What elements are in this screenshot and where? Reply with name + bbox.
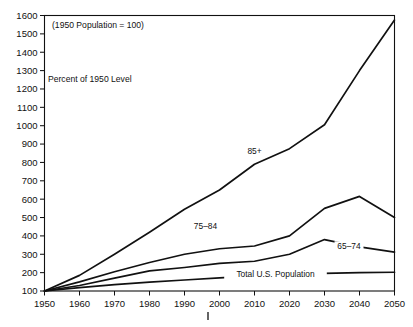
series-label-75-84: 75–84 xyxy=(194,221,218,231)
series-label-total-u-s-population: Total U.S. Population xyxy=(236,269,315,279)
x-tick-label: 2020 xyxy=(279,298,300,309)
x-tick-label: 1950 xyxy=(34,298,55,309)
base-note-annotation: (1950 Population = 100) xyxy=(52,20,144,30)
y-tick-label: 800 xyxy=(22,157,38,168)
axis-note-annotation: Percent of 1950 Level xyxy=(48,74,132,84)
y-tick-label: 100 xyxy=(22,285,38,296)
x-tick-label: 2040 xyxy=(349,298,370,309)
y-tick-label: 400 xyxy=(22,230,38,241)
series-label-85: 85+ xyxy=(247,146,261,156)
y-tick-label: 1400 xyxy=(16,47,37,58)
series-label-65-74: 65–74 xyxy=(337,241,361,251)
x-tick-label: 2010 xyxy=(244,298,265,309)
y-tick-label: 1600 xyxy=(16,10,37,21)
y-tick-label: 900 xyxy=(22,138,38,149)
x-tick-label: 1980 xyxy=(139,298,160,309)
x-tick-label: 1960 xyxy=(69,298,90,309)
y-tick-label: 1000 xyxy=(16,120,37,131)
population-index-line-chart: 1002003004005006007008009001000110012001… xyxy=(0,0,413,327)
x-tick-label: 1990 xyxy=(174,298,195,309)
x-tick-label: 2050 xyxy=(384,298,405,309)
x-tick-label: 2030 xyxy=(314,298,335,309)
y-tick-label: 1200 xyxy=(16,83,37,94)
y-tick-label: 200 xyxy=(22,267,38,278)
chart-container: 1002003004005006007008009001000110012001… xyxy=(0,0,413,327)
x-tick-label: 2000 xyxy=(209,298,230,309)
y-tick-label: 1100 xyxy=(17,102,37,113)
y-tick-label: 300 xyxy=(22,249,38,260)
y-tick-label: 1300 xyxy=(16,65,37,76)
y-tick-label: 500 xyxy=(22,212,38,223)
y-tick-label: 1500 xyxy=(16,28,37,39)
x-tick-label: 1970 xyxy=(104,298,125,309)
y-tick-label: 600 xyxy=(22,194,38,205)
y-tick-label: 700 xyxy=(22,175,38,186)
